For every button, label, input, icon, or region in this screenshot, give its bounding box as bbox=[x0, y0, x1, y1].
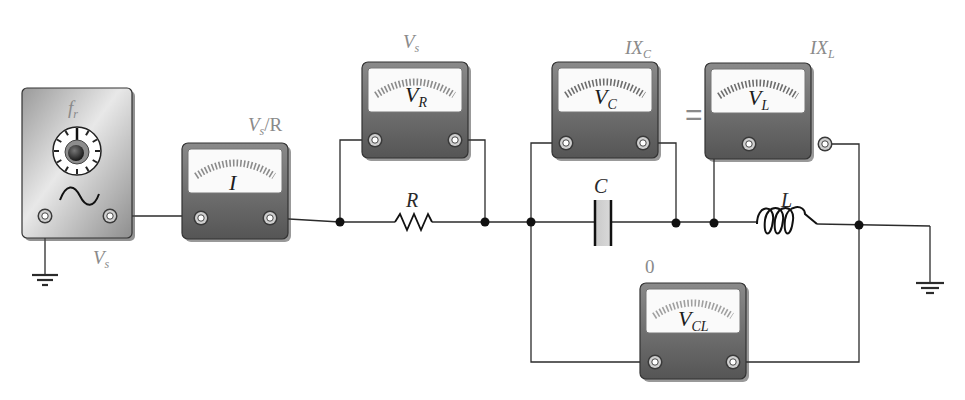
circuit-diagram bbox=[0, 0, 965, 400]
capacitor-label: C bbox=[594, 176, 607, 196]
vc-face-label: VC bbox=[594, 86, 617, 112]
vl-face-label: VL bbox=[748, 87, 769, 113]
equals-sign: = bbox=[685, 100, 703, 130]
ground-icon bbox=[32, 275, 58, 285]
resistor-icon bbox=[395, 214, 432, 230]
frequency-dial-icon[interactable] bbox=[53, 127, 101, 175]
vcl-reading-label: 0 bbox=[645, 257, 655, 276]
inductor-icon bbox=[757, 207, 817, 233]
resistor-label: R bbox=[406, 190, 418, 210]
source-voltage-label: Vs bbox=[93, 248, 109, 270]
resonant-frequency-label: fr bbox=[68, 98, 78, 120]
vc-reading-label: IXC bbox=[625, 38, 651, 60]
vl-reading-label: IXL bbox=[810, 38, 835, 60]
signal-generator[interactable] bbox=[22, 88, 135, 241]
capacitor-icon bbox=[595, 200, 611, 246]
current-reading-label: Vs/R bbox=[248, 115, 282, 137]
wiring bbox=[45, 140, 930, 362]
vcl-face-label: VCL bbox=[678, 308, 709, 334]
ammeter bbox=[182, 143, 291, 242]
vr-reading-label: Vs bbox=[403, 32, 419, 54]
ground-icon bbox=[916, 283, 944, 293]
inductor-label: L bbox=[781, 190, 792, 210]
ammeter-face-label: I bbox=[229, 172, 236, 194]
voltmeter-vr bbox=[362, 62, 471, 161]
vr-face-label: VR bbox=[405, 84, 427, 110]
